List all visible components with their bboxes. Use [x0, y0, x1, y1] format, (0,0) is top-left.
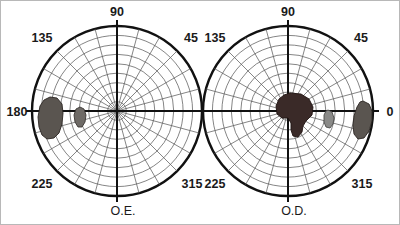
eye-label-oe: O.E.: [110, 204, 135, 218]
degree-label-225: 225: [32, 177, 53, 191]
degree-label-135: 135: [32, 31, 53, 45]
degree-label-45: 45: [184, 31, 198, 45]
polar-grid-spoke: [117, 111, 139, 193]
large-scotoma-left-temporal: [38, 97, 63, 139]
polar-grid-spoke: [57, 111, 117, 171]
polar-grid-spoke: [117, 51, 177, 111]
polar-grid-spoke: [117, 29, 139, 111]
polar-grid-spoke: [266, 111, 288, 193]
degree-label-45: 45: [354, 31, 368, 45]
visual-field-polar-svg: 9013545180225315O.E.90135450225315O.D.: [0, 0, 400, 225]
polar-grid-spoke: [206, 111, 288, 133]
small-scotoma-right-paracentral: [324, 110, 334, 128]
polar-grid-spoke: [117, 89, 199, 111]
right-polar-plot: 90135450225315O.D.: [197, 5, 394, 218]
degree-label-180: 180: [7, 105, 28, 119]
polar-charts-figure: 9013545180225315O.E.90135450225315O.D.: [0, 0, 400, 225]
degree-label-90: 90: [110, 5, 124, 19]
left-polar-plot: 9013545180225315O.E.: [7, 5, 208, 218]
polar-grid-spoke: [228, 111, 288, 171]
degree-label-90: 90: [281, 5, 295, 19]
degree-label-315: 315: [182, 177, 203, 191]
polar-grid-spoke: [117, 111, 199, 133]
polar-grid-spoke: [117, 111, 177, 171]
small-scotoma-left-paracentral: [74, 107, 86, 127]
degree-label-315: 315: [352, 177, 373, 191]
polar-grid-spoke: [206, 89, 288, 111]
eye-label-od: O.D.: [281, 204, 307, 218]
polar-grid-spoke: [57, 51, 117, 111]
polar-grid-spoke: [95, 29, 117, 111]
degree-label-225: 225: [205, 177, 226, 191]
polar-grid-spoke: [95, 111, 117, 193]
degree-label-135: 135: [205, 31, 226, 45]
degree-label-0: 0: [387, 105, 394, 119]
